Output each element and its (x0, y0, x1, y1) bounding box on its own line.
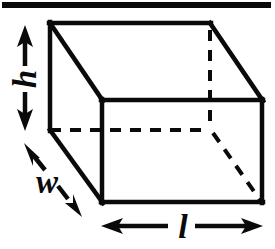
edge-top-left-diagonal (50, 23, 103, 101)
visible-edges-group (49, 22, 263, 203)
dimension-length: l (101, 208, 263, 245)
width-arrow-lower-shaft (58, 186, 68, 199)
edge-top-right-diagonal (210, 23, 263, 101)
rectangular-prism-diagram: h w l (0, 0, 275, 249)
height-label: h (7, 70, 43, 88)
dimension-height: h (7, 25, 43, 131)
length-label: l (178, 208, 188, 245)
width-label: w (36, 164, 59, 200)
dimension-width: w (24, 143, 82, 217)
hidden-edge-bottom-right-diagonal (213, 133, 260, 200)
figure-container: h w l (0, 0, 275, 249)
